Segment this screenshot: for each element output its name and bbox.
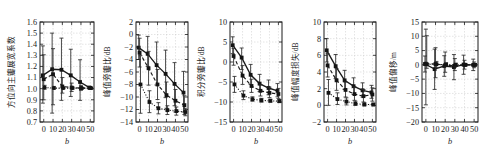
x-axis-title: b xyxy=(448,137,452,146)
data-point-marker xyxy=(155,63,159,67)
chart-canvas-2: −14−12−10−8−6−4−20201020304050b峰值旁瓣比/dB xyxy=(100,0,194,157)
data-point-marker xyxy=(362,94,366,98)
data-point-marker xyxy=(242,94,246,98)
chart-panel-4: −2024681001020304050b峰值幅度损失/dB xyxy=(288,0,382,157)
y-tick-label: −10 xyxy=(406,89,419,98)
data-point-marker xyxy=(138,51,142,55)
chart-panel-5: −20−15−10−505101501020304050b峰值偏移/m xyxy=(382,0,484,157)
x-tick-label: 50 xyxy=(274,125,282,134)
data-point-marker xyxy=(362,103,366,107)
error-bar xyxy=(78,60,82,101)
series-solid xyxy=(137,35,186,112)
y-tick-label: −10 xyxy=(120,93,133,102)
x-tick-label: 50 xyxy=(470,125,478,134)
data-point-marker xyxy=(259,99,263,103)
gridlines xyxy=(136,22,188,122)
y-tick-label: −2 xyxy=(312,118,321,127)
y-axis: −20246810 xyxy=(312,18,376,127)
y-axis-title: 峰值偏移/m xyxy=(388,52,398,92)
data-point-marker xyxy=(146,52,150,56)
y-tick-label: 1.5 xyxy=(27,29,37,38)
y-tick-label: 2 xyxy=(129,18,133,27)
data-point-marker xyxy=(43,86,47,90)
x-tick-label: 40 xyxy=(77,125,85,134)
data-point-marker xyxy=(137,46,141,50)
y-axis-title: 方位向主瓣展宽系数 xyxy=(6,36,16,108)
y-tick-label: 2 xyxy=(317,85,321,94)
data-point-marker xyxy=(345,100,349,104)
data-point-marker xyxy=(268,99,272,103)
y-tick-label: 15 xyxy=(411,18,419,27)
x-tick-label: 20 xyxy=(441,125,449,134)
series-dashed xyxy=(138,38,187,114)
x-tick-label: 0 xyxy=(424,125,428,134)
x-tick-label: 10 xyxy=(332,125,340,134)
x-tick-label: 40 xyxy=(359,125,367,134)
x-tick-label: 0 xyxy=(138,125,142,134)
data-line xyxy=(44,74,91,88)
data-point-marker xyxy=(50,67,54,71)
data-point-marker xyxy=(183,103,187,107)
data-point-marker xyxy=(327,91,331,95)
series-solid xyxy=(423,49,475,89)
y-axis-title: 峰值旁瓣比/dB xyxy=(102,47,112,98)
series-dashed xyxy=(232,48,281,98)
data-point-marker xyxy=(41,73,45,77)
y-tick-label: −8 xyxy=(124,80,133,89)
x-tick-label: 20 xyxy=(153,125,161,134)
x-axis-title: b xyxy=(65,137,69,146)
data-point-marker xyxy=(250,84,254,88)
y-axis: 0.70.80.91.01.11.21.31.41.51.6 xyxy=(27,18,94,127)
x-tick-label: 50 xyxy=(180,125,188,134)
data-point-marker xyxy=(361,88,365,92)
data-line xyxy=(45,88,92,89)
data-point-marker xyxy=(232,54,236,58)
y-tick-label: 8 xyxy=(317,35,321,44)
data-point-marker xyxy=(183,110,187,114)
data-point-marker xyxy=(157,106,161,110)
data-point-marker xyxy=(353,92,357,96)
x-tick-label: 30 xyxy=(350,125,358,134)
chart-canvas-1: 0.70.80.91.01.11.21.31.41.51.60102030405… xyxy=(0,0,100,157)
chart-panel-3: −15−10−5051001020304050b积分旁瓣比/dB xyxy=(194,0,288,157)
data-point-marker xyxy=(60,68,64,72)
x-tick-label: 50 xyxy=(368,125,376,134)
y-tick-label: 1.2 xyxy=(27,62,37,71)
y-tick-label: −5 xyxy=(218,78,227,87)
data-point-marker xyxy=(336,97,340,101)
data-point-marker xyxy=(268,91,272,95)
y-tick-label: −10 xyxy=(214,98,227,107)
data-point-marker xyxy=(164,72,168,76)
gridlines xyxy=(422,22,478,122)
data-point-marker xyxy=(277,99,281,103)
data-point-marker xyxy=(249,73,253,77)
x-axis-title: b xyxy=(348,137,352,146)
y-tick-label: 4 xyxy=(317,68,321,77)
data-point-marker xyxy=(277,92,281,96)
chart-canvas-4: −2024681001020304050b峰值幅度损失/dB xyxy=(288,0,382,157)
x-tick-label: 20 xyxy=(341,125,349,134)
data-point-marker xyxy=(463,63,467,67)
y-tick-label: 0.8 xyxy=(27,107,37,116)
x-tick-label: 40 xyxy=(460,125,468,134)
plot-frame xyxy=(422,22,478,122)
x-tick-label: 30 xyxy=(256,125,264,134)
x-axis: 01020304050 xyxy=(232,22,283,134)
y-tick-label: 5 xyxy=(223,38,227,47)
x-tick-label: 0 xyxy=(326,125,330,134)
y-tick-label: −20 xyxy=(406,118,419,127)
y-tick-label: −12 xyxy=(120,105,133,114)
y-tick-label: −5 xyxy=(410,75,419,84)
y-tick-label: 1.3 xyxy=(27,51,37,60)
chart-canvas-3: −15−10−5051001020304050b积分旁瓣比/dB xyxy=(194,0,288,157)
x-tick-label: 10 xyxy=(431,125,439,134)
y-tick-label: −6 xyxy=(124,68,133,77)
y-tick-label: −14 xyxy=(120,118,133,127)
y-tick-label: 0.7 xyxy=(27,118,37,127)
data-point-marker xyxy=(335,78,339,82)
data-point-marker xyxy=(139,83,143,87)
y-tick-label: −15 xyxy=(406,104,419,113)
y-tick-label: 0 xyxy=(415,61,419,70)
data-point-marker xyxy=(231,43,235,47)
data-point-marker xyxy=(240,56,244,60)
